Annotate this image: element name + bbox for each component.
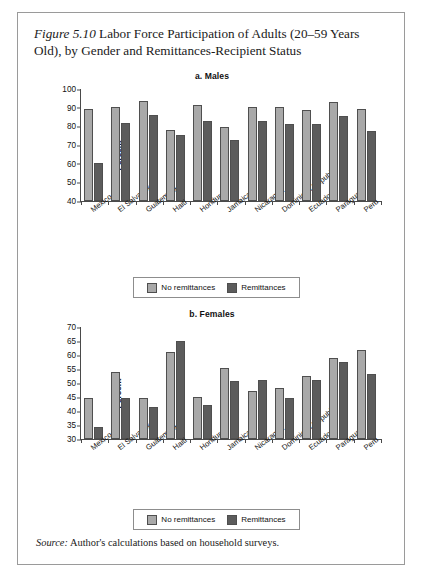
bar-group: Dominican Republic [272, 327, 299, 439]
bar-remittances [230, 140, 239, 201]
bar-no-remittances [357, 350, 366, 439]
chart-title-males: a. Males [18, 71, 406, 81]
x-axis-tick [217, 439, 218, 443]
legend-swatch-remittances [227, 283, 237, 293]
source-text: Author's calculations based on household… [70, 537, 279, 548]
bar-no-remittances [275, 388, 284, 439]
bar-no-remittances [248, 107, 257, 201]
legend-item-remittances: Remittances [227, 515, 285, 525]
bar-group: Haiti [163, 327, 190, 439]
figure-number: Figure 5.10 [34, 26, 96, 41]
x-axis-tick [326, 201, 327, 205]
bar-no-remittances [111, 107, 120, 201]
bar-remittances [121, 123, 130, 201]
bar-no-remittances [111, 372, 120, 439]
bar-remittances [94, 163, 103, 201]
y-axis-tick: 60 [67, 351, 81, 360]
bar-group: Haiti [163, 89, 190, 201]
bar-group: Nicaragua [245, 89, 272, 201]
bar-no-remittances [302, 376, 311, 439]
bar-remittances [176, 135, 185, 201]
bar-group: Paraguay [326, 327, 353, 439]
bar-no-remittances [220, 368, 229, 439]
bar-remittances [339, 362, 348, 439]
legend-label-no-remittances: No remittances [161, 515, 215, 524]
bar-no-remittances [193, 397, 202, 439]
source-note: Source: Author's calculations based on h… [36, 537, 386, 548]
bar-no-remittances [357, 109, 366, 201]
bar-remittances [367, 374, 376, 439]
bar-group: Paraguay [326, 89, 353, 201]
bar-remittances [367, 131, 376, 201]
bar-remittances [230, 381, 239, 439]
bar-no-remittances [166, 352, 175, 439]
y-axis-tick: 70 [67, 323, 81, 332]
legend-label-remittances: Remittances [241, 515, 285, 524]
bar-remittances [258, 380, 267, 439]
x-axis-tick [136, 439, 137, 443]
x-axis-tick [272, 439, 273, 443]
x-axis-tick [245, 201, 246, 205]
legend-label-no-remittances: No remittances [161, 283, 215, 292]
bar-no-remittances [193, 105, 202, 201]
x-axis-tick [108, 439, 109, 443]
bar-group: Nicaragua [245, 327, 272, 439]
x-axis-tick [163, 439, 164, 443]
bar-remittances [176, 341, 185, 439]
bar-group: Mexico [81, 89, 108, 201]
chart-title-females: b. Females [18, 309, 406, 319]
bar-group: Honduras [190, 327, 217, 439]
bar-group: Peru [354, 89, 381, 201]
legend-label-remittances: Remittances [241, 283, 285, 292]
source-label: Source: [36, 537, 68, 548]
bar-group: El Salvador [108, 327, 135, 439]
bar-remittances [312, 380, 321, 439]
bar-group: Jamaica [217, 327, 244, 439]
bar-group: Ecuador [299, 89, 326, 201]
bar-no-remittances [139, 398, 148, 439]
bar-no-remittances [329, 358, 338, 439]
legend-item-no-remittances: No remittances [147, 515, 215, 525]
bar-no-remittances [275, 107, 284, 201]
bar-remittances [285, 398, 294, 439]
bar-remittances [285, 124, 294, 201]
bar-no-remittances [302, 110, 311, 201]
y-axis-tick: 55 [67, 365, 81, 374]
bar-series-males: MexicoEl SalvadorGuatemalaHaitiHondurasJ… [81, 89, 381, 201]
y-axis-tick: 40 [67, 407, 81, 416]
bar-remittances [121, 398, 130, 439]
bar-group: Jamaica [217, 89, 244, 201]
y-axis-tick: 90 [67, 103, 81, 112]
chart-panel-females: b. Females Percent MexicoEl SalvadorGuat… [18, 309, 406, 544]
x-axis-tick [354, 201, 355, 205]
legend-males: No remittances Remittances [133, 277, 300, 298]
y-axis-tick: 30 [67, 435, 81, 444]
figure-container: Figure 5.10 Labor Force Participation of… [17, 12, 405, 565]
plot-area-females: Percent MexicoEl SalvadorGuatemalaHaitiH… [80, 327, 381, 440]
bar-group: Ecuador [299, 327, 326, 439]
bar-series-females: MexicoEl SalvadorGuatemalaHaitiHondurasJ… [81, 327, 381, 439]
x-axis-tick [81, 439, 82, 443]
legend-item-no-remittances: No remittances [147, 283, 215, 293]
bar-group: El Salvador [108, 89, 135, 201]
bar-no-remittances [329, 102, 338, 201]
bar-no-remittances [84, 398, 93, 439]
legend-swatch-remittances [227, 515, 237, 525]
y-axis-tick: 80 [67, 122, 81, 131]
y-axis-tick: 65 [67, 337, 81, 346]
bar-remittances [339, 116, 348, 201]
x-axis-tick [381, 201, 382, 205]
y-axis-tick: 40 [67, 197, 81, 206]
bar-remittances [312, 124, 321, 201]
bar-no-remittances [166, 130, 175, 201]
bar-group: Guatemala [136, 89, 163, 201]
bar-remittances [203, 121, 212, 201]
bar-group: Mexico [81, 327, 108, 439]
bar-no-remittances [139, 101, 148, 201]
legend-swatch-no-remittances [147, 283, 157, 293]
x-axis-tick [354, 439, 355, 443]
bar-group: Guatemala [136, 327, 163, 439]
x-axis-tick [136, 201, 137, 205]
bar-no-remittances [248, 391, 257, 439]
x-axis-tick [81, 201, 82, 205]
